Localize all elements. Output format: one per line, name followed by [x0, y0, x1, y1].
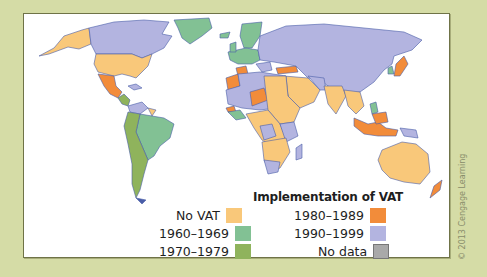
legend-swatch: [370, 226, 386, 241]
legend-swatch: [370, 208, 386, 223]
legend-label: 1960–1969: [159, 226, 229, 241]
legend-swatch: [226, 208, 242, 223]
legend-swatch: [235, 244, 251, 259]
region-west-africa: [228, 110, 246, 120]
region-australia: [378, 142, 430, 184]
region-south-africa: [264, 160, 280, 174]
legend-item-no-data: No data: [318, 244, 389, 259]
legend-swatch: [235, 226, 251, 241]
region-mexico: [98, 74, 122, 98]
region-balkans: [256, 62, 272, 72]
region-korea: [388, 66, 394, 74]
region-papua: [400, 128, 418, 138]
legend-title: Implementation of VAT: [253, 190, 403, 204]
legend-label: No data: [318, 244, 367, 259]
legend-swatch: [373, 244, 389, 259]
region-caribbean: [128, 84, 142, 90]
copyright-text: © 2013 Cengage Learning: [458, 154, 467, 260]
region-iceland: [220, 32, 230, 38]
region-canada: [89, 20, 172, 58]
legend-item-1960s: 1960–1969: [159, 226, 251, 241]
legend-item-no-vat: No VAT: [176, 208, 242, 223]
region-madagascar: [296, 144, 302, 160]
legend-label: 1980–1989: [294, 208, 364, 223]
region-philippines: [370, 102, 378, 114]
legend-label: 1970–1979: [159, 244, 229, 259]
map-frame: Implementation of VAT No VAT 1960–1969 1…: [23, 13, 450, 258]
region-greenland: [174, 18, 212, 44]
legend: Implementation of VAT No VAT 1960–1969 1…: [144, 188, 444, 254]
legend-item-1970s: 1970–1979: [159, 244, 251, 259]
region-india: [324, 86, 346, 114]
region-guyana: [148, 108, 156, 116]
region-alaska: [39, 28, 91, 56]
region-japan: [394, 56, 408, 76]
region-se-asia: [344, 90, 364, 114]
region-turkey: [276, 66, 298, 74]
legend-label: 1990–1999: [294, 226, 364, 241]
legend-label: No VAT: [176, 208, 220, 223]
region-borneo: [372, 112, 388, 124]
region-uk: [230, 42, 236, 52]
legend-item-1990s: 1990–1999: [294, 226, 386, 241]
legend-item-1980s: 1980–1989: [294, 208, 386, 223]
